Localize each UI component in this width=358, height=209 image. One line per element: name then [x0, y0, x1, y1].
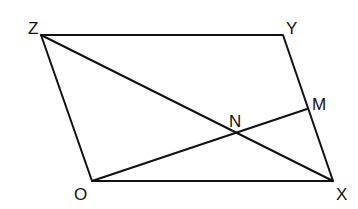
segment-om: [92, 109, 307, 181]
vertex-label-x: X: [336, 186, 347, 203]
point-label-m: M: [312, 96, 326, 113]
geometry-diagram: Z Y X O M N: [0, 0, 358, 209]
point-label-n: N: [229, 113, 241, 130]
vertex-label-o: O: [74, 186, 87, 203]
vertex-label-y: Y: [286, 20, 297, 37]
vertex-label-z: Z: [28, 20, 38, 37]
parallelogram-figure: [0, 0, 358, 209]
